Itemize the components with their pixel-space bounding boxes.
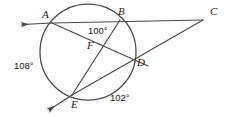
point-label-e: E [71,99,78,110]
ray-from-a-left [22,23,52,25]
angle-measure-100: 100° [88,26,108,36]
geometry-figure: A B C D E F 100° 108° 102° [0,0,227,117]
point-label-c: C [210,6,217,17]
ray-from-e-down-left [49,95,72,110]
point-label-a: A [42,9,49,20]
secant-abc [52,20,203,23]
arc-measure-108: 108° [14,61,34,71]
point-label-b: B [118,6,125,17]
point-label-d: D [137,57,145,68]
arc-measure-102: 102° [110,93,130,103]
point-label-f: F [87,40,94,51]
